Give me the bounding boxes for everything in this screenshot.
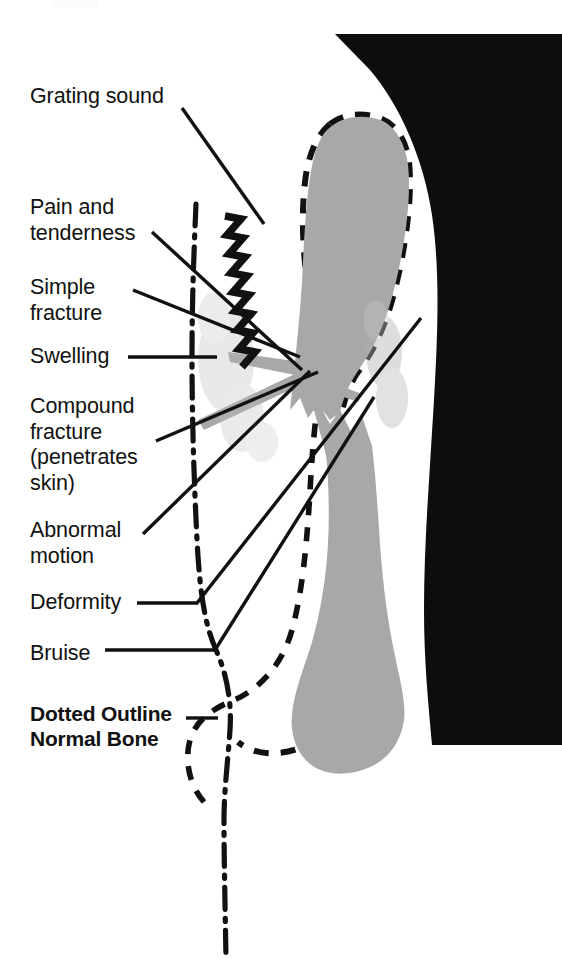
label-swelling: Swelling (30, 344, 109, 370)
label-abnormal-motion: Abnormal motion (30, 518, 121, 569)
label-deformity: Deformity (30, 590, 121, 616)
label-bruise: Bruise (30, 641, 90, 667)
label-compound-fracture: Compound fracture (penetrates skin) (30, 394, 138, 496)
label-pain-and-tenderness: Pain and tenderness (30, 195, 135, 246)
label-simple-fracture: Simple fracture (30, 275, 102, 326)
fracture-diagram-figure: Grating sound Pain and tenderness Simple… (0, 0, 562, 959)
fractured-bone-lower-fragment (292, 402, 405, 774)
swelling-smudges (198, 292, 278, 462)
label-dotted-outline-normal-bone: Dotted Outline Normal Bone (30, 701, 172, 751)
label-grating-sound: Grating sound (30, 84, 164, 110)
